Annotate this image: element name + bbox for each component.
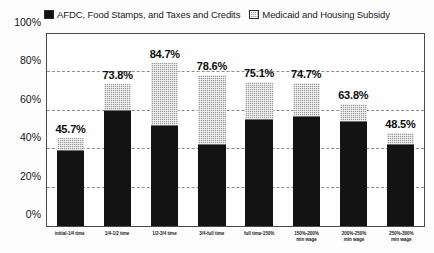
bar-slot: 45.7% bbox=[47, 34, 94, 226]
bar-slot: 78.6% bbox=[188, 34, 235, 226]
legend-label-medicaid: Medicaid and Housing Subsidy bbox=[262, 9, 390, 20]
x-axis-tick-label: 150%-200%min wage bbox=[283, 229, 330, 251]
x-axis-tick-label: 1/2-3/4 time bbox=[141, 229, 188, 251]
y-axis-tick-label: 100% bbox=[14, 16, 41, 28]
bar-segment-afdc[interactable] bbox=[387, 145, 414, 226]
legend-swatch-hatch-icon bbox=[249, 10, 259, 19]
bar-slot: 48.5% bbox=[377, 34, 424, 226]
stacked-bar[interactable]: 63.8% bbox=[340, 104, 367, 226]
y-axis-tick-label: 40% bbox=[20, 131, 41, 143]
legend-entry-medicaid: Medicaid and Housing Subsidy bbox=[249, 9, 390, 20]
bar-segment-medicaid[interactable] bbox=[104, 84, 131, 110]
chart-legend: AFDC, Food Stamps, and Taxes and Credits… bbox=[0, 6, 434, 22]
stacked-bar[interactable]: 48.5% bbox=[387, 133, 414, 226]
bar-slot: 73.8% bbox=[94, 34, 141, 226]
x-axis-tick-label: 3/4-full time bbox=[188, 229, 235, 251]
bar-total-label: 84.7% bbox=[150, 48, 180, 60]
x-axis-tick-label: 250%-300%min wage bbox=[378, 229, 425, 251]
bar-segment-medicaid[interactable] bbox=[57, 138, 84, 151]
bar-segment-medicaid[interactable] bbox=[151, 63, 178, 126]
bar-total-label: 75.1% bbox=[244, 67, 274, 79]
bar-total-label: 78.6% bbox=[197, 60, 227, 72]
x-axis-tick-label: initial-1/4 time bbox=[46, 229, 93, 251]
bar-segment-afdc[interactable] bbox=[198, 145, 225, 226]
bar-segment-afdc[interactable] bbox=[151, 126, 178, 226]
x-axis-tick-label: full time-150% bbox=[236, 229, 283, 251]
bar-segment-medicaid[interactable] bbox=[198, 75, 225, 145]
bar-total-label: 45.7% bbox=[55, 123, 85, 135]
stacked-bar[interactable]: 73.8% bbox=[104, 84, 131, 226]
stacked-bar[interactable]: 84.7% bbox=[151, 63, 178, 226]
bar-segment-afdc[interactable] bbox=[104, 111, 131, 226]
y-axis-tick-label: 60% bbox=[20, 93, 41, 105]
bar-segment-afdc[interactable] bbox=[57, 151, 84, 226]
chart-bars: 45.7%73.8%84.7%78.6%75.1%74.7%63.8%48.5% bbox=[47, 34, 424, 226]
chart-plot-area: 0%20%40%60%80%100% 45.7%73.8%84.7%78.6%7… bbox=[46, 33, 425, 227]
x-axis-tick-label: 200%-250%min wage bbox=[330, 229, 377, 251]
stacked-bar[interactable]: 75.1% bbox=[245, 82, 272, 226]
legend-label-afdc: AFDC, Food Stamps, and Taxes and Credits bbox=[57, 9, 240, 20]
chart-x-axis: initial-1/4 time1/4-1/2 time1/2-3/4 time… bbox=[46, 229, 425, 251]
bar-segment-afdc[interactable] bbox=[293, 117, 320, 226]
stacked-bar[interactable]: 45.7% bbox=[57, 138, 84, 226]
bar-segment-medicaid[interactable] bbox=[293, 83, 320, 117]
bar-segment-medicaid[interactable] bbox=[387, 133, 414, 145]
bar-total-label: 74.7% bbox=[291, 68, 321, 80]
bar-total-label: 48.5% bbox=[385, 118, 415, 130]
bar-segment-afdc[interactable] bbox=[340, 122, 367, 226]
y-axis-tick-label: 20% bbox=[20, 170, 41, 182]
bar-slot: 84.7% bbox=[141, 34, 188, 226]
y-axis-tick-label: 80% bbox=[20, 54, 41, 66]
bar-total-label: 73.8% bbox=[103, 69, 133, 81]
legend-entry-afdc: AFDC, Food Stamps, and Taxes and Credits bbox=[44, 9, 240, 20]
bar-segment-afdc[interactable] bbox=[245, 120, 272, 226]
bar-slot: 74.7% bbox=[283, 34, 330, 226]
stacked-bar[interactable]: 74.7% bbox=[293, 83, 320, 226]
x-axis-tick-label: 1/4-1/2 time bbox=[93, 229, 140, 251]
y-axis-tick-label: 0% bbox=[26, 208, 41, 220]
bar-total-label: 63.8% bbox=[338, 89, 368, 101]
bar-segment-medicaid[interactable] bbox=[340, 104, 367, 123]
bar-slot: 75.1% bbox=[236, 34, 283, 226]
stacked-bar[interactable]: 78.6% bbox=[198, 75, 225, 226]
legend-swatch-solid-icon bbox=[44, 10, 54, 19]
bar-segment-medicaid[interactable] bbox=[245, 82, 272, 121]
bar-slot: 63.8% bbox=[330, 34, 377, 226]
